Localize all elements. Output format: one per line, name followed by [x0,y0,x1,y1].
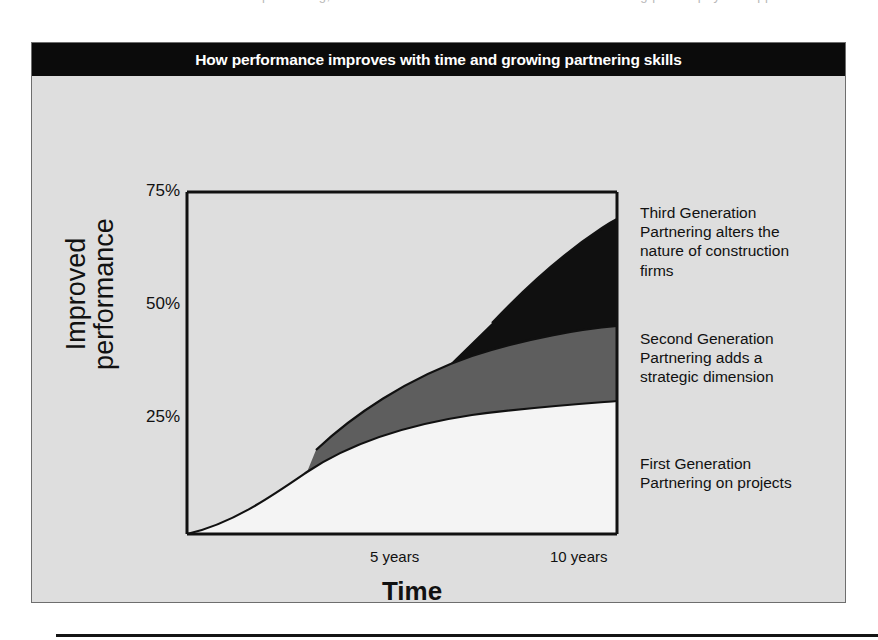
y-tick-label-25: 25% [96,407,180,427]
x-axis-title: Time [182,576,642,607]
x-tick-label-10-years: 10 years [550,548,608,565]
figure-body: 75% 50% 25% 5 years 10 years Improved pe… [32,76,845,602]
x-tick-label-5-years: 5 years [370,548,419,565]
figure-title: How performance improves with time and g… [195,51,682,69]
annotation-third-generation: Third Generation Partnering alters the n… [640,203,830,280]
figure-container: How performance improves with time and g… [31,42,846,603]
annotation-second-generation: Second Generation Partnering adds a stra… [640,329,830,387]
y-axis-title: Improved performance [62,179,118,409]
annotation-first-generation: First Generation Partnering on projects [640,454,830,492]
clipped-header-text-label: partnering, and this is where the Third … [262,0,793,3]
page-bottom-rule [56,634,878,637]
figure-title-bar: How performance improves with time and g… [32,43,845,76]
clipped-header-text: partnering, and this is where the Third … [0,0,878,16]
